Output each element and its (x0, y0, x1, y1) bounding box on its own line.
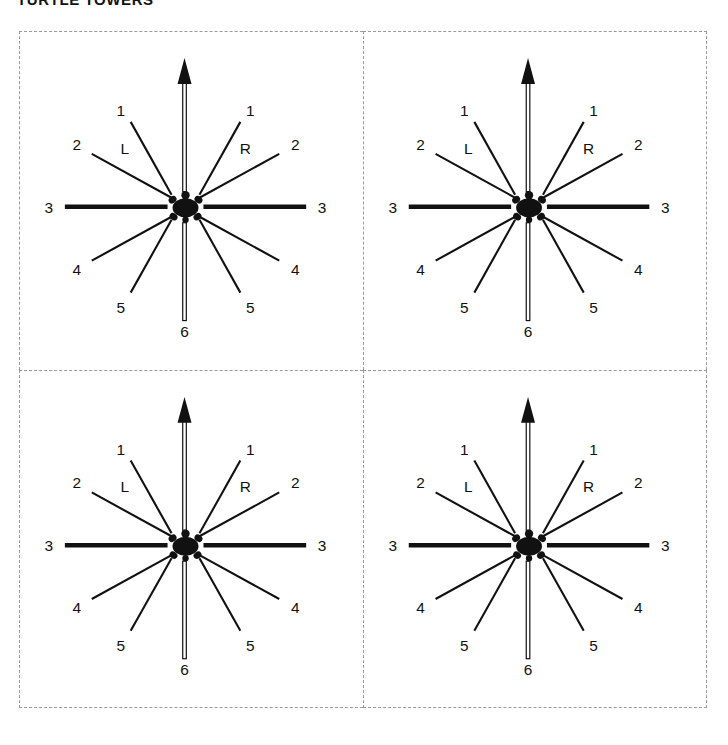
label-right-4: 4 (634, 598, 643, 615)
label-right-5: 5 (246, 299, 255, 316)
heading-arrow (521, 396, 535, 529)
ray-right-4 (543, 217, 623, 261)
label-left-4: 4 (73, 598, 82, 615)
label-right-3: 3 (661, 199, 670, 216)
ray-right-4 (543, 555, 623, 599)
turtle-icon (511, 191, 548, 223)
label-left-5: 5 (116, 636, 125, 653)
ray-right-5 (543, 220, 584, 293)
ray-left-1 (131, 122, 172, 195)
ray-down-6 (526, 561, 530, 659)
label-left-1: 1 (460, 440, 469, 457)
ray-down-6 (183, 223, 187, 321)
label-side-right: R (583, 140, 594, 157)
heading-arrow (521, 58, 535, 192)
ray-left-2 (436, 492, 516, 536)
label-right-2: 2 (634, 474, 643, 491)
ray-right-2 (543, 154, 623, 198)
label-side-left: L (120, 478, 129, 495)
label-right-5: 5 (246, 636, 255, 653)
ray-down-6 (526, 223, 530, 321)
label-left-3: 3 (45, 537, 54, 554)
up-arrow-icon (521, 396, 535, 422)
label-down-6: 6 (524, 660, 533, 677)
label-left-2: 2 (416, 136, 425, 153)
ray-right-1 (199, 122, 240, 195)
label-left-3: 3 (389, 199, 398, 216)
turtle-icon (511, 529, 548, 561)
label-right-2: 2 (291, 474, 300, 491)
label-right-4: 4 (291, 598, 300, 615)
label-side-right: R (240, 478, 251, 495)
label-left-4: 4 (416, 598, 425, 615)
label-left-2: 2 (73, 474, 82, 491)
ray-left-4 (92, 555, 172, 599)
label-left-4: 4 (416, 261, 425, 278)
ray-left-1 (131, 460, 172, 533)
ray-down-6 (183, 561, 187, 659)
label-side-left: L (464, 478, 473, 495)
label-down-6: 6 (180, 323, 189, 340)
ray-right-2 (199, 154, 279, 198)
ray-left-5 (131, 558, 172, 631)
label-side-left: L (464, 140, 473, 157)
ray-right-2 (543, 492, 623, 536)
ray-right-1 (199, 460, 240, 533)
label-right-1: 1 (589, 440, 598, 457)
ray-left-5 (474, 220, 515, 293)
label-right-3: 3 (318, 199, 327, 216)
panel-top-left: 1 2 3 4 5 1 2 3 4 5 6 L R (19, 31, 363, 370)
ray-right-4 (199, 555, 279, 599)
ray-right-1 (543, 460, 584, 533)
ray-left-2 (92, 492, 172, 536)
label-side-left: L (120, 140, 129, 157)
label-right-2: 2 (291, 136, 300, 153)
label-down-6: 6 (524, 323, 533, 340)
label-left-3: 3 (389, 537, 398, 554)
ray-left-5 (474, 558, 515, 631)
ray-right-2 (199, 492, 279, 536)
ray-left-2 (92, 154, 172, 198)
label-left-3: 3 (45, 199, 54, 216)
ray-left-2 (436, 154, 516, 198)
turtle-radial-diagram: 1 2 3 4 5 1 2 3 4 5 6 L R (20, 32, 363, 370)
label-left-1: 1 (116, 102, 125, 119)
label-left-4: 4 (73, 261, 82, 278)
ray-right-5 (543, 558, 584, 631)
up-arrow-icon (521, 58, 535, 84)
turtle-icon (167, 191, 204, 223)
label-down-6: 6 (180, 660, 189, 677)
ray-right-5 (199, 558, 240, 631)
label-right-1: 1 (589, 102, 598, 119)
up-arrow-icon (178, 58, 192, 84)
label-left-1: 1 (460, 102, 469, 119)
ray-left-4 (436, 217, 516, 261)
heading-arrow (178, 58, 192, 192)
ray-left-4 (92, 217, 172, 261)
label-right-1: 1 (246, 440, 255, 457)
ray-left-1 (474, 460, 515, 533)
turtle-radial-diagram: 1 2 3 4 5 1 2 3 4 5 6 L R (364, 371, 706, 708)
up-arrow-icon (178, 396, 192, 422)
label-side-right: R (583, 478, 594, 495)
panel-bottom-right: 1 2 3 4 5 1 2 3 4 5 6 L R (363, 370, 707, 709)
label-side-right: R (240, 140, 251, 157)
label-left-5: 5 (116, 299, 125, 316)
panel-top-right: 1 2 3 4 5 1 2 3 4 5 6 L R (363, 31, 707, 370)
label-left-1: 1 (116, 440, 125, 457)
label-left-5: 5 (460, 636, 469, 653)
panel-bottom-left: 1 2 3 4 5 1 2 3 4 5 6 L R (19, 370, 363, 709)
heading-arrow (178, 396, 192, 529)
figure-grid: 1 2 3 4 5 1 2 3 4 5 6 L R (19, 31, 707, 708)
ray-right-4 (199, 217, 279, 261)
turtle-radial-diagram: 1 2 3 4 5 1 2 3 4 5 6 L R (364, 32, 706, 370)
turtle-icon (167, 529, 204, 561)
ray-left-1 (474, 122, 515, 195)
ray-left-4 (436, 555, 516, 599)
label-left-5: 5 (460, 299, 469, 316)
label-right-1: 1 (246, 102, 255, 119)
label-right-2: 2 (634, 136, 643, 153)
page-title: TURTLE TOWERS (17, 0, 154, 8)
label-right-3: 3 (318, 537, 327, 554)
ray-right-1 (543, 122, 584, 195)
